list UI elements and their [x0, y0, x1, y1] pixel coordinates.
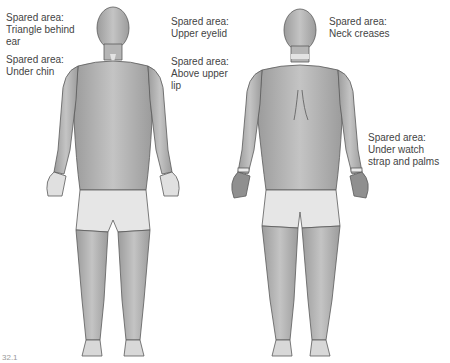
- annotation-triangle-behind-ear: Spared area: Triangle behind ear: [6, 12, 75, 48]
- annotation-upper-eyelid: Spared area: Upper eyelid: [171, 16, 229, 40]
- annotation-under-watch-strap: Spared area: Under watch strap and palms: [368, 132, 439, 168]
- front-view: [47, 7, 179, 356]
- body-illustration: [0, 0, 450, 363]
- annotation-under-chin: Spared area: Under chin: [6, 54, 64, 78]
- back-view: [232, 9, 369, 356]
- annotation-above-upper-lip: Spared area: Above upper lip: [171, 56, 229, 92]
- annotation-neck-creases: Spared area: Neck creases: [329, 16, 390, 40]
- figure-number: 32.1: [2, 353, 18, 362]
